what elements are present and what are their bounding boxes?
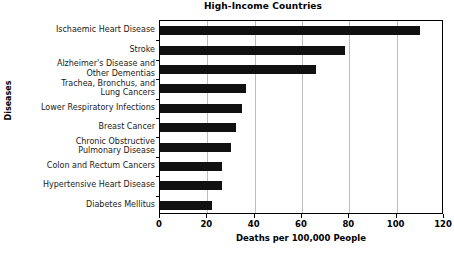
x-axis-tick — [396, 214, 397, 218]
bar-row[interactable] — [160, 46, 444, 55]
category-label-line: Stroke — [7, 45, 155, 54]
x-axis-tick — [206, 214, 207, 218]
category-label-line: Chronic Obstructive — [7, 137, 155, 146]
bar-row[interactable] — [160, 84, 444, 93]
category-label: Lower Respiratory Infections — [7, 103, 159, 112]
y-axis-tick — [156, 196, 160, 197]
bar[interactable] — [160, 65, 316, 74]
category-label-line: Lower Respiratory Infections — [7, 103, 155, 112]
x-axis-title: Deaths per 100,000 People — [159, 233, 443, 243]
bar-row[interactable] — [160, 65, 444, 74]
category-label: Alzheimer's Disease andOther Dementias — [7, 59, 159, 77]
chart-title: High-Income Countries — [0, 1, 454, 11]
bar-row[interactable] — [160, 104, 444, 113]
category-label: Stroke — [7, 45, 159, 54]
y-axis-tick — [156, 118, 160, 119]
category-label: Colon and Rectum Cancers — [7, 161, 159, 170]
bar[interactable] — [160, 201, 212, 210]
x-axis-tick-label: 60 — [295, 219, 307, 229]
category-label-line: Ischaemic Heart Disease — [7, 25, 155, 34]
plot-area — [159, 20, 443, 214]
category-label-line: Trachea, Bronchus, and — [7, 79, 155, 88]
x-axis-tick — [301, 214, 302, 218]
category-label-column: Ischaemic Heart DiseaseStrokeAlzheimer's… — [0, 20, 159, 214]
bar[interactable] — [160, 123, 236, 132]
bar-chart: High-Income Countries Diseases Ischaemic… — [0, 0, 454, 253]
category-label-line: Hypertensive Heart Disease — [7, 180, 155, 189]
x-axis-tick-label: 20 — [200, 219, 212, 229]
category-label-line: Alzheimer's Disease and — [7, 59, 155, 68]
bar-row[interactable] — [160, 162, 444, 171]
bar[interactable] — [160, 143, 231, 152]
y-axis-tick — [156, 99, 160, 100]
category-label: Diabetes Mellitus — [7, 200, 159, 209]
y-axis-tick — [156, 79, 160, 80]
category-label: Chronic ObstructivePulmonary Disease — [7, 137, 159, 155]
bar-row[interactable] — [160, 181, 444, 190]
category-label-line: Pulmonary Disease — [7, 146, 155, 155]
y-axis-tick — [156, 60, 160, 61]
category-label: Breast Cancer — [7, 122, 159, 131]
y-axis-tick — [156, 157, 160, 158]
category-label-line: Diabetes Mellitus — [7, 200, 155, 209]
bar[interactable] — [160, 104, 242, 113]
bar-row[interactable] — [160, 201, 444, 210]
bar[interactable] — [160, 162, 222, 171]
x-axis-tick-label: 40 — [248, 219, 260, 229]
bar-row[interactable] — [160, 143, 444, 152]
bar[interactable] — [160, 26, 420, 35]
x-axis-tick — [348, 214, 349, 218]
x-axis-tick-label: 80 — [342, 219, 354, 229]
bar[interactable] — [160, 84, 246, 93]
category-label: Hypertensive Heart Disease — [7, 180, 159, 189]
x-axis-tick-label: 100 — [387, 219, 405, 229]
x-axis-tick — [254, 214, 255, 218]
y-axis-tick — [156, 176, 160, 177]
category-label-line: Other Dementias — [7, 69, 155, 78]
category-label: Trachea, Bronchus, andLung Cancers — [7, 79, 159, 97]
y-axis-tick — [156, 40, 160, 41]
bar[interactable] — [160, 181, 222, 190]
x-axis-tick-label: 0 — [156, 219, 162, 229]
bar[interactable] — [160, 46, 345, 55]
category-label-line: Lung Cancers — [7, 88, 155, 97]
bar-row[interactable] — [160, 26, 444, 35]
category-label: Ischaemic Heart Disease — [7, 25, 159, 34]
category-label-line: Colon and Rectum Cancers — [7, 161, 155, 170]
bar-row[interactable] — [160, 123, 444, 132]
category-label-line: Breast Cancer — [7, 122, 155, 131]
x-axis-tick — [443, 214, 444, 218]
y-axis-tick — [156, 137, 160, 138]
x-axis-tick — [159, 214, 160, 218]
x-axis-tick-label: 120 — [434, 219, 452, 229]
